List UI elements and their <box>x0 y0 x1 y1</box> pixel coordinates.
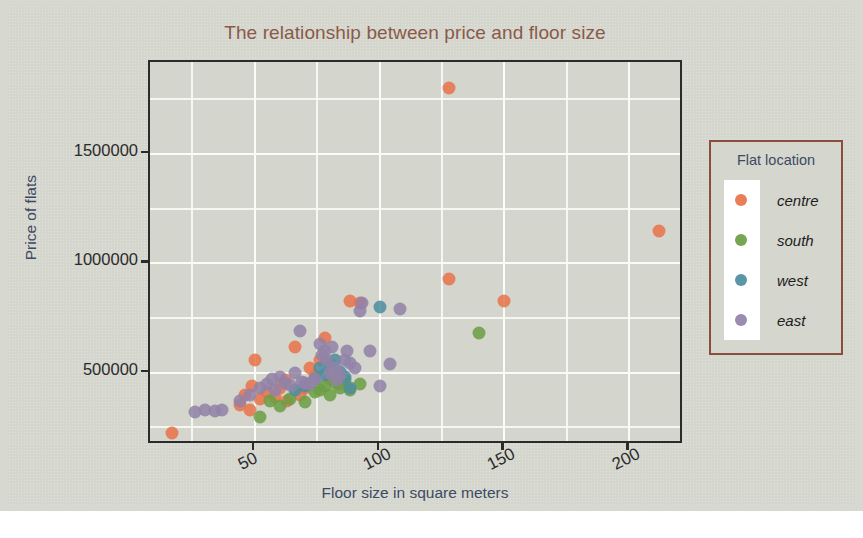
gridline-vertical-minor <box>566 62 568 441</box>
y-axis-title: Price of flats <box>22 175 40 260</box>
data-point-south <box>298 396 311 409</box>
gridline-horizontal-minor <box>150 208 680 210</box>
plot-frame <box>148 60 682 443</box>
gridline-horizontal <box>150 372 680 374</box>
legend-item-west[interactable]: west <box>711 260 841 300</box>
data-point-west <box>343 382 356 395</box>
data-point-east <box>216 403 229 416</box>
plot-area <box>150 62 680 441</box>
data-point-centre <box>166 426 179 439</box>
data-point-east <box>283 378 296 391</box>
data-point-east <box>333 368 346 381</box>
gridline-horizontal <box>150 153 680 155</box>
y-axis-tick <box>141 260 148 263</box>
data-point-east <box>373 379 386 392</box>
y-axis-tick-label: 500000 <box>20 360 138 379</box>
legend-item-label: east <box>777 312 805 329</box>
gridline-vertical-minor <box>191 62 193 441</box>
gridline-vertical <box>503 62 505 441</box>
data-point-east <box>326 340 339 353</box>
chart-title: The relationship between price and floor… <box>148 22 682 44</box>
data-point-south <box>253 410 266 423</box>
gridline-horizontal-minor <box>150 317 680 319</box>
data-point-east <box>341 344 354 357</box>
legend-marker-icon <box>735 314 747 326</box>
legend-marker-icon <box>735 274 747 286</box>
data-point-centre <box>443 272 456 285</box>
legend-box: Flat location centresouthwesteast <box>709 140 843 355</box>
data-point-east <box>393 303 406 316</box>
data-point-east <box>348 362 361 375</box>
data-point-centre <box>498 294 511 307</box>
legend-item-label: centre <box>777 192 819 209</box>
data-point-centre <box>288 340 301 353</box>
data-point-centre <box>248 353 261 366</box>
x-axis-title: Floor size in square meters <box>148 484 682 502</box>
data-point-centre <box>653 224 666 237</box>
y-axis-tick <box>141 151 148 154</box>
legend-marker-icon <box>735 194 747 206</box>
gridline-vertical <box>628 62 630 441</box>
legend-item-centre[interactable]: centre <box>711 180 841 220</box>
gridline-vertical-minor <box>441 62 443 441</box>
data-point-east <box>356 296 369 309</box>
legend-item-south[interactable]: south <box>711 220 841 260</box>
data-point-east <box>383 358 396 371</box>
gridline-horizontal-minor <box>150 98 680 100</box>
gridline-horizontal <box>150 262 680 264</box>
y-axis-tick-label: 1500000 <box>20 141 138 160</box>
data-point-east <box>363 344 376 357</box>
legend-item-label: west <box>777 272 808 289</box>
scatter-chart-figure: The relationship between price and floor… <box>0 0 863 538</box>
legend-title: Flat location <box>711 152 841 168</box>
data-point-east <box>308 373 321 386</box>
data-point-south <box>473 327 486 340</box>
data-point-centre <box>443 82 456 95</box>
y-axis-tick <box>141 370 148 373</box>
data-point-west <box>373 301 386 314</box>
legend-item-east[interactable]: east <box>711 300 841 340</box>
legend-marker-icon <box>735 234 747 246</box>
legend-item-label: south <box>777 232 814 249</box>
data-point-east <box>293 325 306 338</box>
gridline-horizontal-minor <box>150 426 680 428</box>
